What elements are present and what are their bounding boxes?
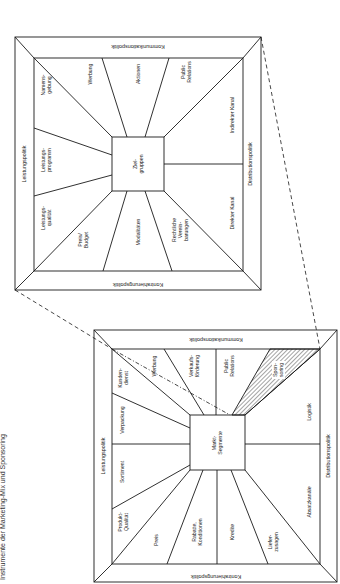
lower-frame-top: Kommunikationspolitik	[189, 337, 243, 343]
lower-frame-right: Distributionspolitik	[325, 434, 331, 478]
svg-text:zusagen: zusagen	[273, 532, 279, 552]
lower-seg-lieferzusagen: Liefer- zusagen	[267, 532, 279, 552]
lower-seg-kredite: Kredite	[229, 524, 235, 541]
upper-seg-werbung: Werbung	[87, 63, 93, 84]
upper-seg-rechtliche-vereinbarungen: Rechtliche Verein- barungen	[171, 218, 189, 242]
upper-seg-namensgebung: Namens- gebung	[40, 74, 52, 95]
svg-text:Relations: Relations	[186, 61, 192, 83]
figure-caption: Instrumente der Marketing-Mix und Sponso…	[0, 434, 7, 580]
lower-center-label: Markt- Segmente	[211, 431, 223, 455]
upper-center-label: Ziel- gruppen	[132, 154, 144, 173]
svg-text:Segmente: Segmente	[217, 431, 223, 455]
lower-diagram	[94, 330, 337, 582]
upper-seg-leistungsprogramm: Leistungs- programm	[40, 148, 52, 172]
lower-seg-preis: Preis	[153, 534, 159, 546]
lower-seg-absatzkanaele: Absatzkanäle	[306, 486, 312, 517]
upper-seg-modalitaeten: Modalitäten	[135, 218, 141, 245]
lower-seg-public-relations: Public Relations	[223, 355, 235, 377]
lower-frame-left: Leistungspolitik	[100, 437, 106, 474]
upper-seg-indirekter-kanal: Indirekter Kanal	[229, 97, 235, 133]
upper-frame-right: Distributionspolitik	[247, 142, 253, 186]
lower-seg-verkaufsfoerderung: Verkaufs- förderung	[188, 355, 200, 377]
svg-text:gebung: gebung	[46, 76, 52, 93]
upper-seg-preis-budget: Preis/ Budget	[77, 231, 89, 248]
lower-seg-sponsoring: Spon- soring	[272, 361, 285, 379]
upper-frame-top: Kommunikationspolitik	[111, 44, 165, 50]
upper-seg-aktionen: Aktionen	[135, 64, 141, 84]
lower-seg-produkt-qualitaet: Produkt- Qualität	[117, 512, 129, 532]
upper-seg-leistungsqualitaet: Leistungs- qualität	[40, 206, 52, 230]
svg-text:qualität: qualität	[46, 209, 52, 226]
lower-outer-frame	[94, 330, 337, 582]
upper-frame-bottom: Kontrahierungspolitik	[113, 282, 164, 288]
svg-text:soring: soring	[278, 363, 284, 377]
lower-seg-sortiment: Sortiment	[119, 460, 125, 483]
svg-text:Budget: Budget	[83, 231, 89, 248]
lower-seg-verpackung: Verpackung	[119, 406, 125, 434]
lower-seg-logistik: Logistik	[306, 403, 312, 421]
lower-seg-rabatte-konditionen: Rabatte, Konditionen	[191, 518, 203, 546]
lower-seg-werbung: Werbung	[151, 355, 157, 376]
upper-frame-left: Leistungspolitik	[21, 145, 27, 182]
svg-text:Relations: Relations	[229, 355, 235, 377]
upper-seg-public-relations: Public Relations	[180, 61, 192, 83]
svg-text:gruppen: gruppen	[138, 154, 144, 173]
lower-frame-bottom: Kontrahierungspolitik	[191, 574, 242, 580]
marketing-mix-diagram: Instrumente der Marketing-Mix und Sponso…	[0, 0, 340, 584]
svg-text:Konditionen: Konditionen	[197, 518, 203, 546]
lower-seg-kundendienst: Kunden- dienst	[117, 368, 129, 388]
svg-text:Qualität: Qualität	[123, 513, 129, 531]
svg-text:dienst: dienst	[123, 371, 129, 385]
upper-seg-direkter-kanal: Direkter Kanal	[229, 197, 235, 230]
svg-text:barungen: barungen	[183, 219, 189, 241]
svg-text:programm: programm	[46, 148, 52, 172]
svg-text:förderung: förderung	[194, 355, 200, 377]
